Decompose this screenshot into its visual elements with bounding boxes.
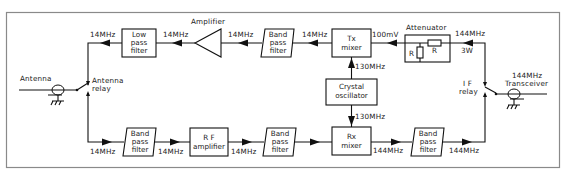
block-label: filter <box>272 145 289 154</box>
label-freq: 14MHz <box>231 147 257 156</box>
label-power: 3W <box>461 46 473 55</box>
label-power: 100mV <box>372 30 399 39</box>
block-label: Rx <box>347 132 357 141</box>
arrow-right-icon <box>391 139 401 146</box>
block-label: mixer <box>341 43 361 52</box>
wire-bpf3-to-ifrelay <box>443 94 485 142</box>
label-freq: 144MHz <box>455 29 485 38</box>
block-label: filter <box>270 46 287 55</box>
arrow-left-icon <box>387 40 397 47</box>
relay-contact-icon <box>483 92 487 97</box>
arrow-right-icon <box>242 139 252 146</box>
block-label: oscillator <box>335 91 368 100</box>
shunt-resistor-icon <box>417 47 423 58</box>
label-freq: 14MHz <box>158 147 184 156</box>
arrow-up-icon <box>348 58 355 68</box>
arrow-left-icon <box>308 40 318 47</box>
block-label: Attenuator <box>406 23 447 32</box>
label-freq: 130MHz <box>355 112 385 121</box>
block-label: filter <box>132 145 149 154</box>
relay-label: relay <box>92 84 111 93</box>
wire-relay-to-bpf1 <box>88 93 124 142</box>
block-label: Amplifier <box>191 17 225 26</box>
block-label: filter <box>420 145 437 154</box>
arrow-right-icon <box>170 139 180 146</box>
block-label: mixer <box>341 141 361 150</box>
ground-icon <box>48 95 64 105</box>
transverter-block-diagram: 14MHz Low pass filter 14MHz Amplifier 14… <box>0 0 562 170</box>
label-freq: 14MHz <box>90 30 116 39</box>
arrow-right-icon <box>102 139 112 146</box>
arrow-left-icon <box>172 40 182 47</box>
label-freq: 144MHz <box>373 146 403 155</box>
arrow-down-icon <box>348 116 355 126</box>
relay-label: relay <box>459 87 478 96</box>
amplifier-triangle <box>195 29 221 57</box>
label-freq: 144MHz <box>449 146 479 155</box>
arrow-right-icon <box>310 139 320 146</box>
block-label: Tx <box>346 34 356 43</box>
block-label: R F <box>203 133 214 142</box>
label-freq: 14MHz <box>302 30 328 39</box>
arrow-left-icon <box>238 40 248 47</box>
transceiver-label: Transceiver <box>504 79 548 88</box>
if-relay-switch <box>485 87 496 93</box>
antenna-relay-switch <box>77 83 88 90</box>
label-freq: 14MHz <box>163 30 189 39</box>
ground-icon <box>507 99 524 109</box>
label-freq: 14MHz <box>228 30 254 39</box>
arrow-left-icon <box>100 40 110 47</box>
block-label: Crystal <box>339 82 364 91</box>
arrow-right-icon <box>462 139 472 146</box>
block-label: amplifier <box>193 142 225 151</box>
antenna-label: Antenna <box>20 74 52 83</box>
label-freq: 130MHz <box>355 62 385 71</box>
resistor-label: R <box>432 46 437 55</box>
resistor-label: R <box>409 49 414 58</box>
label-freq: 14MHz <box>90 147 116 156</box>
block-label: filter <box>131 46 148 55</box>
relay-contact-icon <box>483 82 487 87</box>
